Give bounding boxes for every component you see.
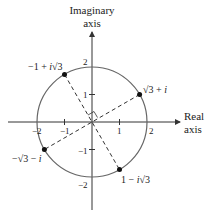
tick-y-neg1: −1 [78, 146, 88, 156]
tick-x-2: 2 [149, 126, 154, 136]
complex-plane-diagram: Imaginary axis Real axis −2 −1 1 2 2 1 −… [0, 0, 214, 218]
point-label-neg1-plus-isqrt3: −1 + i√3 [28, 61, 63, 72]
real-axis-label-2: axis [184, 123, 202, 135]
tick-x-1: 1 [117, 126, 122, 136]
tick-y-2: 2 [83, 57, 88, 67]
tick-x-neg2: −2 [32, 126, 42, 136]
tick-y-1: 1 [83, 90, 88, 100]
real-axis-label: Real [184, 110, 204, 122]
tick-y-neg2: −2 [78, 180, 88, 190]
tick-x-neg1: −1 [60, 126, 70, 136]
point-label-negsqrt3-minus-i: −√3 − i [12, 153, 42, 164]
point-label-sqrt3-plus-i: √3 + i [143, 84, 167, 95]
point-label-1-minus-isqrt3: 1 − i√3 [121, 174, 150, 185]
imag-axis-label-2: axis [83, 17, 101, 29]
imag-axis-label: Imaginary [69, 4, 115, 16]
